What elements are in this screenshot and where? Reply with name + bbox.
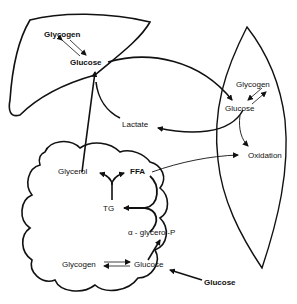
muscle-glucose-label: Glucose [225, 104, 254, 113]
adipose-glycogen-label: Glycogen [62, 260, 96, 269]
tg-label: TG [103, 204, 114, 213]
blood-glucose-label: Glucose [204, 278, 236, 287]
muscle-glycogen-label: Glycogen [236, 80, 270, 89]
muscle-outline [217, 27, 287, 268]
oxidation-label: Oxidation [248, 151, 282, 160]
ffa-label: FFA [130, 167, 145, 176]
adipose-glucose-label: Glucose [134, 260, 163, 269]
alpha-glycerol-p-label: α - glycerol-P [128, 228, 175, 237]
glycerol-label: Glycerol [58, 167, 87, 176]
liver-glucose-label: Glucose [70, 58, 102, 67]
liver-glycogen-label: Glycogen [44, 30, 80, 39]
metabolism-diagram: Glycogen Glucose Glycogen Glucose Lactat… [0, 0, 297, 304]
lactate-label: Lactate [122, 120, 148, 129]
